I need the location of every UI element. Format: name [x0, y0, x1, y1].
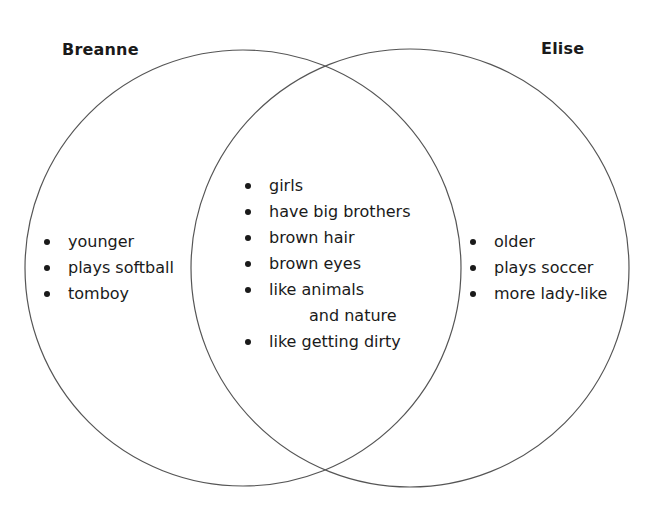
bullet-icon — [245, 183, 251, 189]
list-item: girls — [241, 173, 411, 199]
bullet-icon — [245, 209, 251, 215]
list-item: younger — [40, 229, 174, 255]
left-title: Breanne — [62, 40, 139, 59]
list-item: have big brothers — [241, 199, 411, 225]
bullet-icon — [44, 265, 50, 271]
bullet-icon — [470, 291, 476, 297]
list-item: tomboy — [40, 281, 174, 307]
bullet-icon — [470, 265, 476, 271]
right-list: older plays soccer more lady-like — [466, 229, 607, 307]
bullet-icon — [44, 291, 50, 297]
bullet-icon — [470, 239, 476, 245]
list-item: older — [466, 229, 607, 255]
list-item: brown hair — [241, 225, 411, 251]
bullet-icon — [245, 339, 251, 345]
list-item: like animals — [241, 277, 411, 303]
list-item: more lady-like — [466, 281, 607, 307]
bullet-icon — [245, 261, 251, 267]
bullet-icon — [245, 287, 251, 293]
list-item: plays soccer — [466, 255, 607, 281]
right-title: Elise — [541, 39, 584, 58]
list-item: plays softball — [40, 255, 174, 281]
list-item-continuation: and nature — [241, 303, 411, 329]
overlap-list: girls have big brothers brown hair brown… — [241, 173, 411, 355]
bullet-icon — [245, 235, 251, 241]
list-item: brown eyes — [241, 251, 411, 277]
bullet-icon — [44, 239, 50, 245]
list-item: like getting dirty — [241, 329, 411, 355]
left-list: younger plays softball tomboy — [40, 229, 174, 307]
